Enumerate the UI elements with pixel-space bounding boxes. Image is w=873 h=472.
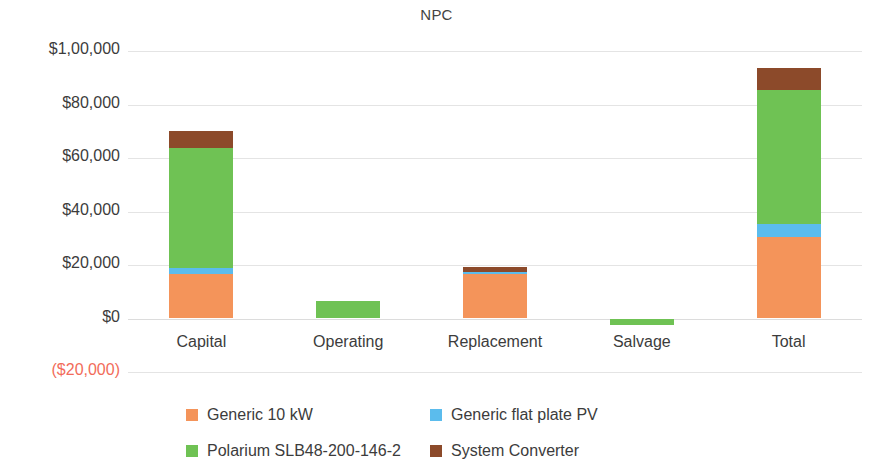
legend-swatch-icon-3 [430,445,442,457]
legend-swatch-icon-1 [430,409,442,421]
legend-item-3[interactable]: System Converter [430,442,579,460]
x-axis-label-operating: Operating [275,333,422,351]
bar-segment-operating-2[interactable] [316,301,380,318]
chart-legend: Generic 10 kWGeneric flat plate PVPolari… [0,398,873,468]
bar-segment-salvage-2[interactable] [610,319,674,326]
x-axis-label-salvage: Salvage [568,333,715,351]
y-tick-label-0: $0 [0,308,120,326]
npc-stacked-bar-chart: NPC $1,00,000$80,000$60,000$40,000$20,00… [0,0,873,472]
y-tick-label-60000: $60,000 [0,147,120,165]
bar-segment-total-1[interactable] [757,224,821,237]
bar-segment-capital-1[interactable] [169,268,233,273]
legend-item-0[interactable]: Generic 10 kW [186,406,313,424]
bar-segment-replacement-3[interactable] [463,267,527,272]
bar-segment-total-2[interactable] [757,90,821,224]
chart-title: NPC [0,6,873,23]
legend-label-0: Generic 10 kW [207,406,313,424]
bar-capital[interactable] [169,51,233,372]
y-tick-label--20000: ($20,000) [0,361,120,379]
x-axis-label-replacement: Replacement [422,333,569,351]
bar-salvage[interactable] [610,51,674,372]
y-tick-label-100000: $1,00,000 [0,40,120,58]
legend-item-2[interactable]: Polarium SLB48-200-146-2 [186,442,401,460]
gridline--20000 [128,372,862,373]
bar-segment-replacement-0[interactable] [463,274,527,318]
legend-label-2: Polarium SLB48-200-146-2 [207,442,401,460]
x-axis-label-capital: Capital [128,333,275,351]
bar-segment-total-0[interactable] [757,237,821,319]
y-tick-label-40000: $40,000 [0,201,120,219]
bar-replacement[interactable] [463,51,527,372]
y-tick-label-80000: $80,000 [0,94,120,112]
bar-segment-capital-3[interactable] [169,131,233,148]
legend-swatch-icon-2 [186,445,198,457]
legend-label-3: System Converter [451,442,579,460]
bar-segment-capital-0[interactable] [169,274,233,319]
legend-label-1: Generic flat plate PV [451,406,598,424]
legend-item-1[interactable]: Generic flat plate PV [430,406,598,424]
x-axis-label-total: Total [715,333,862,351]
bar-total[interactable] [757,51,821,372]
legend-swatch-icon-0 [186,409,198,421]
bar-segment-capital-2[interactable] [169,148,233,268]
plot-area [128,51,862,372]
bar-segment-total-3[interactable] [757,68,821,90]
bar-segment-replacement-1[interactable] [463,272,527,274]
bar-operating[interactable] [316,51,380,372]
y-tick-label-20000: $20,000 [0,254,120,272]
